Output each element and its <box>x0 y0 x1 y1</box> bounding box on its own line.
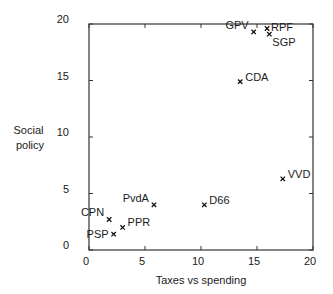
x-tick-label: 10 <box>192 255 204 267</box>
point-label: RPF <box>271 21 293 33</box>
y-axis-title: Social policy <box>13 124 46 151</box>
point-label: PSP <box>87 228 109 240</box>
point-label: VVD <box>288 168 311 180</box>
data-point: D66 <box>202 194 229 207</box>
x-marker-icon <box>120 225 124 229</box>
x-marker-icon <box>267 32 271 36</box>
x-marker-icon <box>152 203 156 207</box>
x-axis-title: Taxes vs spending <box>156 274 247 286</box>
point-label: PvdA <box>123 192 150 204</box>
y-tick-label: 10 <box>57 126 69 138</box>
y-axis-title-line-1: Social <box>13 124 43 136</box>
x-marker-icon <box>251 30 255 34</box>
data-point: PvdA <box>123 192 156 207</box>
x-tick-label: 15 <box>248 255 260 267</box>
data-point: GPV <box>225 19 255 34</box>
y-axis-title-line-2: policy <box>16 139 45 151</box>
x-marker-icon <box>238 79 242 83</box>
plot-frame <box>89 24 313 250</box>
x-tick-label: 0 <box>83 255 89 267</box>
x-marker-icon <box>265 26 269 30</box>
y-tick-label: 15 <box>57 70 69 82</box>
axis-ticks <box>89 24 313 250</box>
data-point: CPN <box>81 206 111 221</box>
x-marker-icon <box>111 232 115 236</box>
point-label: PPR <box>128 216 151 228</box>
x-marker-icon <box>202 203 206 207</box>
data-point: CDA <box>238 71 269 84</box>
point-label: SGP <box>272 36 295 48</box>
x-marker-icon <box>281 177 285 181</box>
data-point: SGP <box>267 32 295 48</box>
y-tick-label: 20 <box>57 13 69 25</box>
y-tick-label: 5 <box>63 183 69 195</box>
data-point: RPF <box>265 21 293 33</box>
point-label: CPN <box>81 206 104 218</box>
point-label: D66 <box>209 194 229 206</box>
x-tick-label: 20 <box>304 255 316 267</box>
x-marker-icon <box>107 217 111 221</box>
data-point: PPR <box>120 216 150 229</box>
y-tick-label: 0 <box>63 239 69 251</box>
point-label: CDA <box>245 71 269 83</box>
data-points: CPNPSPPPRPvdAD66CDAVVDGPVRPFSGP <box>81 19 311 240</box>
data-point: VVD <box>281 168 311 181</box>
point-label: GPV <box>225 19 249 31</box>
x-tick-label: 5 <box>139 255 145 267</box>
data-point: PSP <box>87 228 116 240</box>
scatter-chart: 0510152005101520 CPNPSPPPRPvdAD66CDAVVDG… <box>0 0 333 294</box>
